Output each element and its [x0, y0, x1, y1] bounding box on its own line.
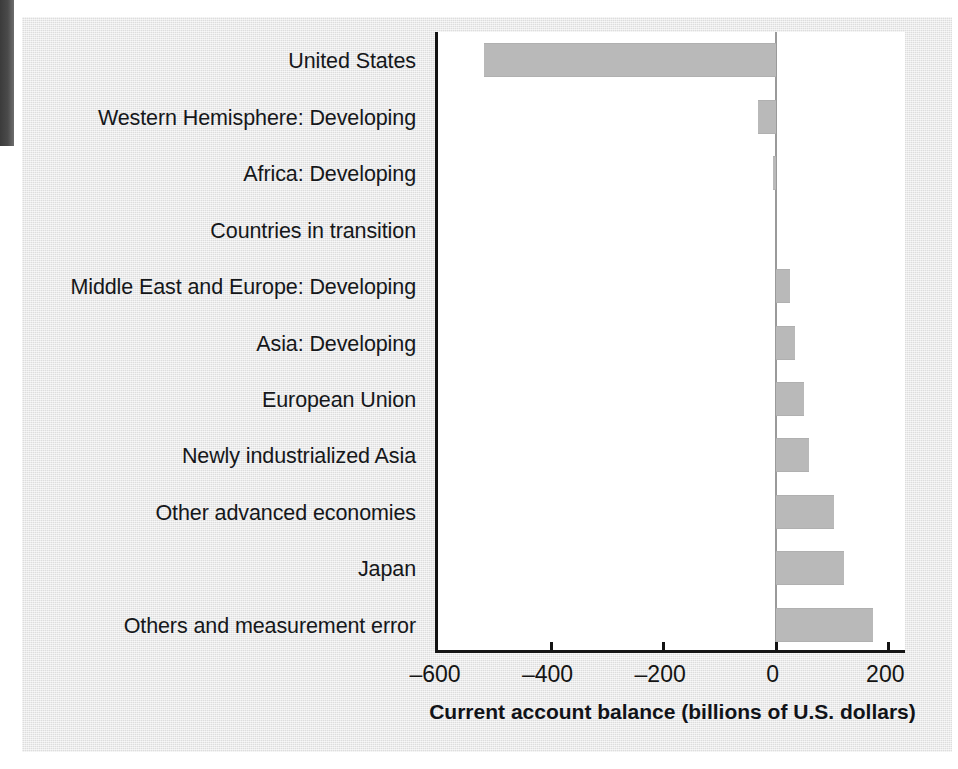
bar: [758, 100, 776, 134]
bar: [776, 495, 835, 529]
page-edge-strip: [0, 0, 14, 146]
category-label: Countries in transition: [40, 219, 416, 243]
x-axis-tick-label: 0: [713, 661, 833, 688]
bar: [776, 269, 791, 303]
x-axis-tick: [887, 642, 890, 653]
category-label: Other advanced economies: [40, 501, 416, 525]
x-axis-tick-label: –600: [375, 661, 495, 688]
bar: [776, 551, 844, 585]
x-axis-tick-label: –400: [488, 661, 608, 688]
x-axis-tick: [775, 642, 778, 653]
bar: [776, 326, 796, 360]
category-label: Africa: Developing: [40, 162, 416, 186]
bar: [773, 156, 776, 190]
x-axis-tick: [662, 642, 665, 653]
category-label: Others and measurement error: [40, 614, 416, 638]
x-axis-tick: [550, 642, 553, 653]
plot-inner: [438, 32, 905, 650]
category-label: Newly industrialized Asia: [40, 444, 416, 468]
x-axis-tick-label: 200: [825, 661, 945, 688]
x-axis-tick-label: –200: [600, 661, 720, 688]
category-label: European Union: [40, 388, 416, 412]
category-label: Japan: [40, 557, 416, 581]
x-axis-title: Current account balance (billions of U.S…: [400, 700, 945, 724]
bar: [776, 608, 873, 642]
category-label: Middle East and Europe: Developing: [40, 275, 416, 299]
bar: [776, 382, 805, 416]
plot-area: [435, 32, 905, 653]
bar: [484, 43, 776, 77]
category-label: United States: [40, 49, 416, 73]
bar: [776, 438, 810, 472]
category-label: Western Hemisphere: Developing: [40, 106, 416, 130]
category-axis-labels: United StatesWestern Hemisphere: Develop…: [40, 33, 416, 653]
category-label: Asia: Developing: [40, 332, 416, 356]
